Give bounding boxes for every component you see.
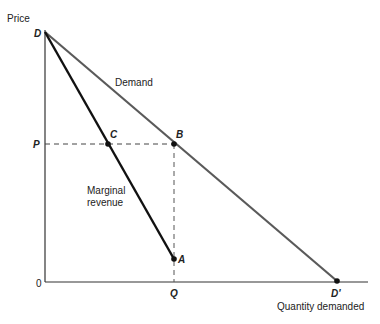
point-d-prime-label: D': [331, 288, 341, 299]
point-d-label: D: [34, 28, 41, 39]
marginal-revenue-label-line2: revenue: [87, 197, 124, 208]
point-a: [171, 256, 177, 262]
demand-curve: [45, 32, 337, 281]
origin-label: 0: [36, 278, 42, 289]
marginal-revenue-label-line1: Marginal: [87, 185, 125, 196]
point-a-label: A: [177, 254, 185, 265]
point-d-prime: [334, 278, 340, 284]
x-axis-label: Quantity demanded: [277, 301, 364, 312]
point-p-label: P: [33, 139, 40, 150]
demand-label: Demand: [115, 77, 153, 88]
point-q-label: Q: [170, 288, 178, 299]
point-c-label: C: [110, 129, 118, 140]
point-b-label: B: [176, 129, 183, 140]
diagram-canvas: Price Quantity demanded 0 Demand Margina…: [0, 0, 380, 324]
y-axis-label: Price: [7, 13, 30, 24]
point-c: [105, 141, 111, 147]
point-b: [171, 141, 177, 147]
